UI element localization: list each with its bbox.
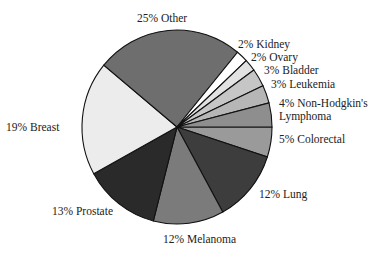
label-kidney: 2% Kidney	[238, 38, 290, 51]
pie-slices	[82, 30, 272, 224]
label-leukemia: 3% Leukemia	[271, 78, 335, 90]
label-colorectal: 5% Colorectal	[279, 133, 345, 145]
pie-chart: 25% Other 2% Kidney 2% Ovary 3% Bladder …	[0, 0, 386, 254]
label-nhl-line1: 4% Non-Hodgkin's	[279, 97, 368, 110]
label-bladder: 3% Bladder	[264, 64, 319, 76]
label-other: 25% Other	[137, 12, 187, 24]
label-nhl-line2: Lymphoma	[279, 110, 331, 123]
label-ovary: 2% Ovary	[251, 51, 298, 64]
label-lung: 12% Lung	[259, 188, 307, 201]
label-breast: 19% Breast	[6, 121, 60, 133]
label-melanoma: 12% Melanoma	[163, 233, 236, 245]
label-prostate: 13% Prostate	[52, 205, 113, 217]
